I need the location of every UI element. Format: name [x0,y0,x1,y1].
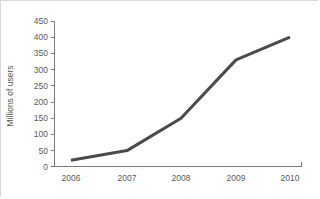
x-tick-label-2008: 2008 [172,173,191,183]
chart-figure: Millions of users 450 400 350 300 250 20… [0,0,318,197]
chart-background [1,1,319,198]
y-tick-label-100: 100 [34,129,48,139]
y-tick-label-400: 400 [34,32,48,42]
y-tick-label-200: 200 [34,97,48,107]
x-tick-label-2010: 2010 [281,173,300,183]
x-tick-label-2009: 2009 [227,173,246,183]
line-chart: Millions of users 450 400 350 300 250 20… [1,1,319,198]
y-tick-label-350: 350 [34,48,48,58]
y-tick-label-250: 250 [34,81,48,91]
y-axis-title: Millions of users [5,66,15,127]
x-tick-label-2006: 2006 [62,173,81,183]
y-tick-label-0: 0 [43,162,48,172]
x-tick-label-2007: 2007 [118,173,137,183]
y-tick-label-450: 450 [34,16,48,26]
y-tick-label-150: 150 [34,113,48,123]
y-tick-label-300: 300 [34,65,48,75]
y-tick-label-50: 50 [39,146,49,156]
